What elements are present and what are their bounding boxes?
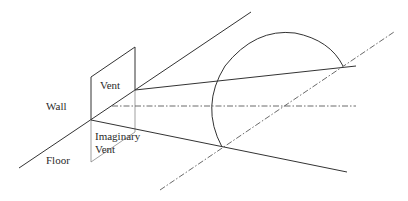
imaginary-vent-label-line1: Imaginary xyxy=(95,130,141,142)
lower-jet-boundary xyxy=(91,120,347,172)
vent-label: Vent xyxy=(100,79,120,91)
jet-cross-section-arc xyxy=(212,32,343,147)
wall-label: Wall xyxy=(46,100,67,112)
upper-jet-boundary xyxy=(135,66,356,90)
floor-label: Floor xyxy=(46,154,70,166)
imaginary-vent-label-line2: Vent xyxy=(95,143,115,155)
vent-diagram: Wall Floor Vent Imaginary Vent xyxy=(0,0,408,201)
diagonal-axis xyxy=(160,32,394,190)
